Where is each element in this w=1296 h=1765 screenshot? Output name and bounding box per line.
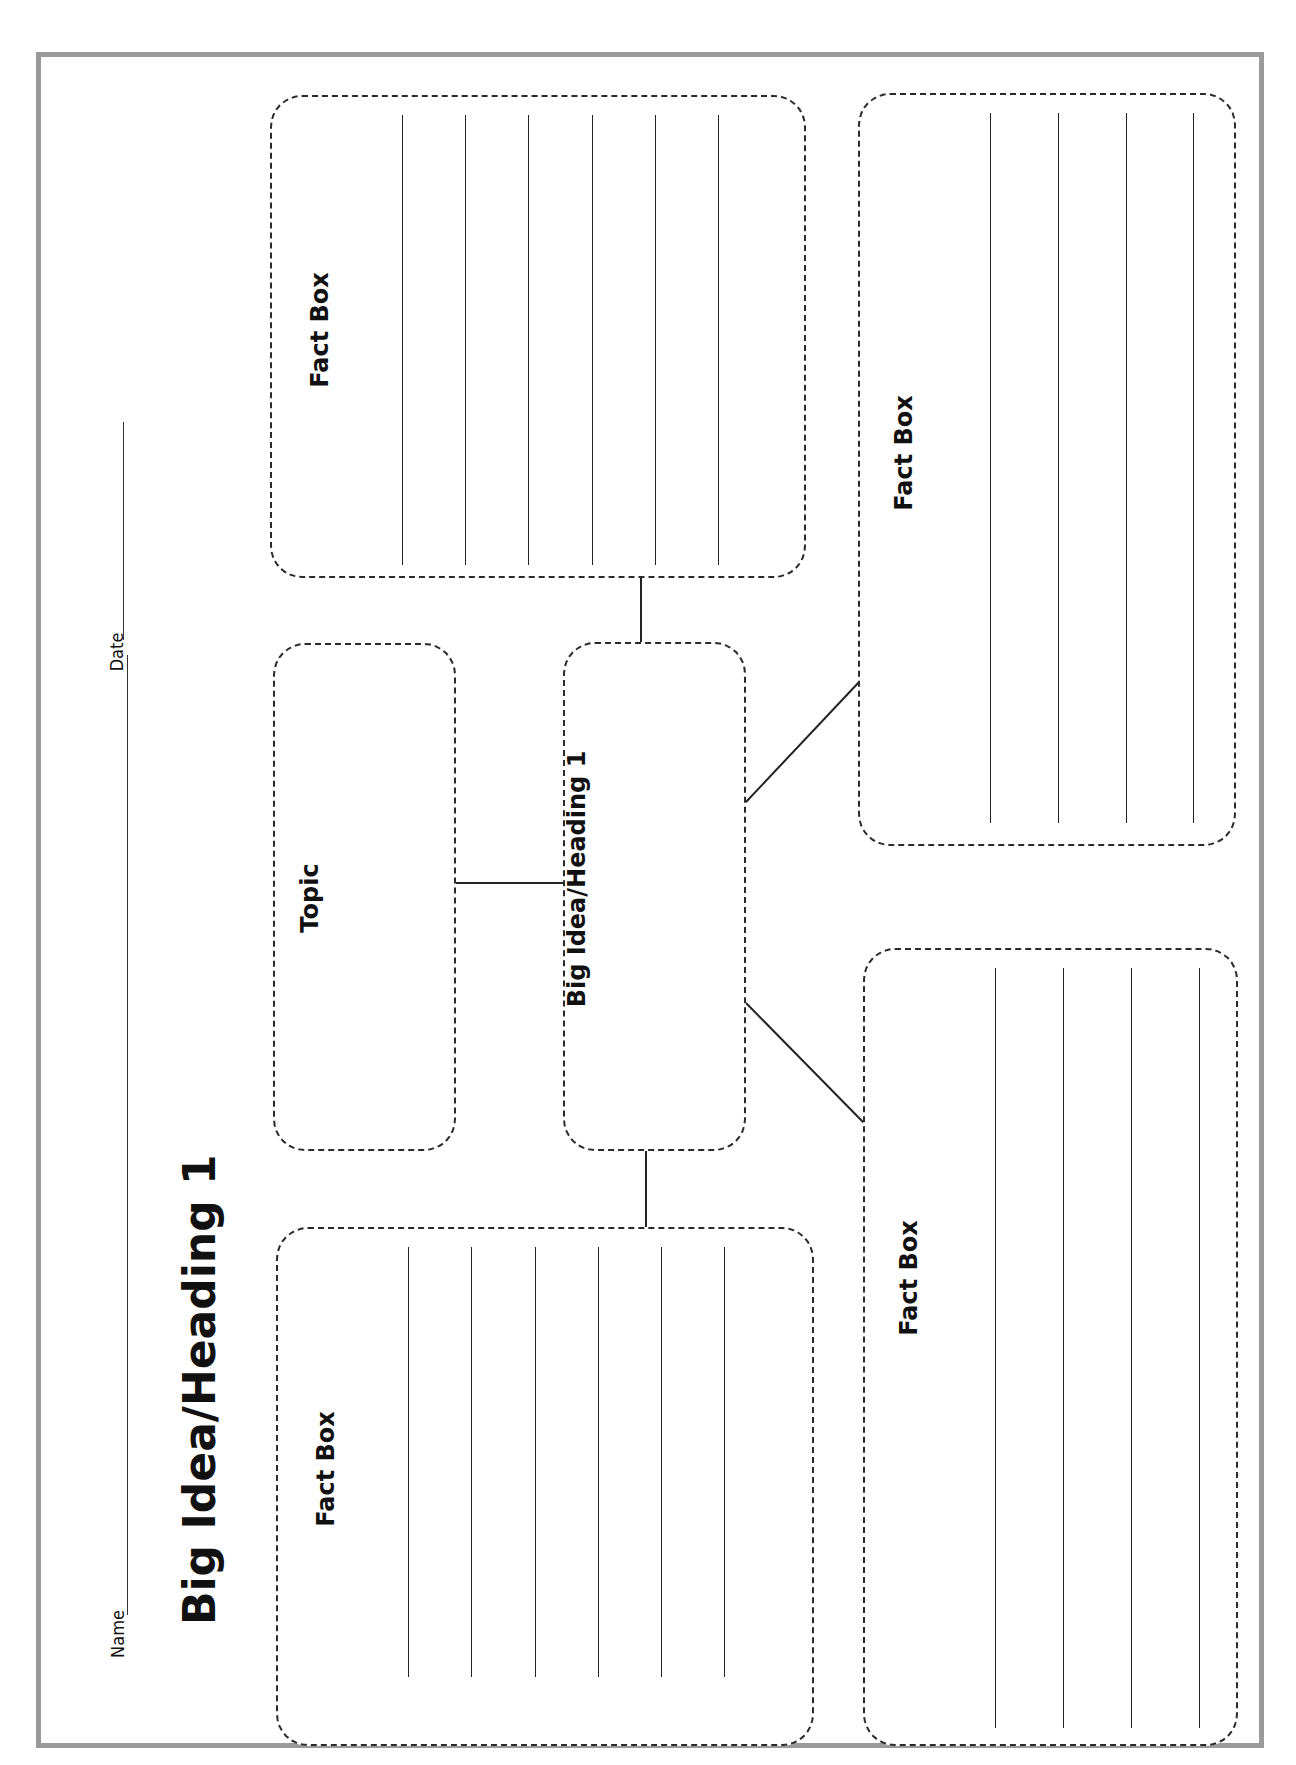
writing-line[interactable] <box>402 115 403 565</box>
fact-box-label: Fact Box <box>311 1409 341 1529</box>
writing-line[interactable] <box>1126 113 1127 823</box>
writing-line[interactable] <box>1063 968 1064 1728</box>
writing-line[interactable] <box>718 115 719 565</box>
date-underline[interactable] <box>123 422 124 640</box>
writing-line[interactable] <box>1199 968 1200 1728</box>
writing-line[interactable] <box>995 968 996 1728</box>
writing-line[interactable] <box>655 115 656 565</box>
writing-line[interactable] <box>990 113 991 823</box>
name-underline[interactable] <box>127 655 128 1615</box>
fact-box-label: Fact Box <box>889 393 919 513</box>
date-label: Date <box>105 624 129 680</box>
fact-box-label: Fact Box <box>305 270 335 390</box>
writing-line[interactable] <box>408 1247 409 1677</box>
writing-line[interactable] <box>465 115 466 565</box>
big-idea-box[interactable]: Big Idea/Heading 1 <box>563 642 746 1151</box>
writing-line[interactable] <box>535 1247 536 1677</box>
writing-line[interactable] <box>592 115 593 565</box>
writing-line[interactable] <box>528 115 529 565</box>
writing-line[interactable] <box>661 1247 662 1677</box>
fact-box-top-right[interactable]: Fact Box <box>858 93 1236 846</box>
writing-line[interactable] <box>471 1247 472 1677</box>
fact-box-top-left[interactable]: Fact Box <box>270 95 806 578</box>
writing-line[interactable] <box>598 1247 599 1677</box>
big-idea-label: Big Idea/Heading 1 <box>562 749 592 1009</box>
writing-line[interactable] <box>1131 968 1132 1728</box>
fact-box-label: Fact Box <box>894 1218 924 1338</box>
fact-box-bottom-left[interactable]: Fact Box <box>276 1227 814 1746</box>
topic-box[interactable]: Topic <box>273 643 456 1151</box>
topic-label: Topic <box>295 858 325 938</box>
writing-line[interactable] <box>1058 113 1059 823</box>
writing-line[interactable] <box>724 1247 725 1677</box>
fact-box-bottom-right[interactable]: Fact Box <box>863 948 1238 1746</box>
page-title: Big Idea/Heading 1 <box>170 1205 230 1625</box>
writing-line[interactable] <box>1193 113 1194 823</box>
